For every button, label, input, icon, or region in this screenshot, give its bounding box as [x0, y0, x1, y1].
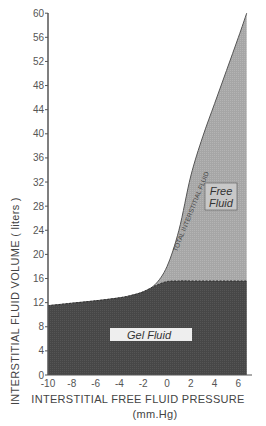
x-tick-label: 0 [164, 378, 170, 389]
x-ticks: -10-8-6-4-20246 [41, 378, 242, 389]
gel-fluid-label: Gel Fluid [127, 329, 172, 341]
x-tick-label: -2 [139, 378, 148, 389]
y-tick-label: 12 [33, 297, 45, 308]
gel-fluid-area [48, 281, 247, 375]
y-tick-label: 60 [33, 8, 45, 19]
free-fluid-label-2: Fluid [209, 197, 234, 209]
y-tick-label: 56 [33, 32, 45, 43]
x-tick-label: -10 [41, 378, 56, 389]
free-fluid-label-1: Free [210, 185, 233, 197]
x-tick-label: 2 [188, 378, 194, 389]
y-ticks: 04812162024283236404448525660 [33, 8, 48, 381]
y-tick-label: 32 [33, 177, 45, 188]
y-tick-label: 36 [33, 152, 45, 163]
y-tick-label: 44 [33, 104, 45, 115]
x-tick-label: -4 [115, 378, 124, 389]
y-tick-label: 28 [33, 201, 45, 212]
x-tick-label: 4 [212, 378, 218, 389]
y-tick-label: 40 [33, 128, 45, 139]
y-tick-label: 8 [38, 321, 44, 332]
x-tick-label: -8 [67, 378, 76, 389]
x-tick-label: -6 [91, 378, 100, 389]
y-tick-label: 20 [33, 249, 45, 260]
x-axis-units: (mm.Hg) [133, 408, 178, 420]
y-tick-label: 4 [38, 345, 44, 356]
x-axis-label: INTERSTITIAL FREE FLUID PRESSURE [31, 393, 244, 405]
y-tick-label: 48 [33, 80, 45, 91]
y-tick-label: 52 [33, 56, 45, 67]
y-axis-label: INTERSTITIAL FLUID VOLUME ( liters ) [9, 197, 21, 405]
y-tick-label: 16 [33, 273, 45, 284]
chart: 04812162024283236404448525660 -10-8-6-4-… [0, 0, 266, 426]
y-tick-label: 24 [33, 225, 45, 236]
x-tick-label: 6 [236, 378, 242, 389]
